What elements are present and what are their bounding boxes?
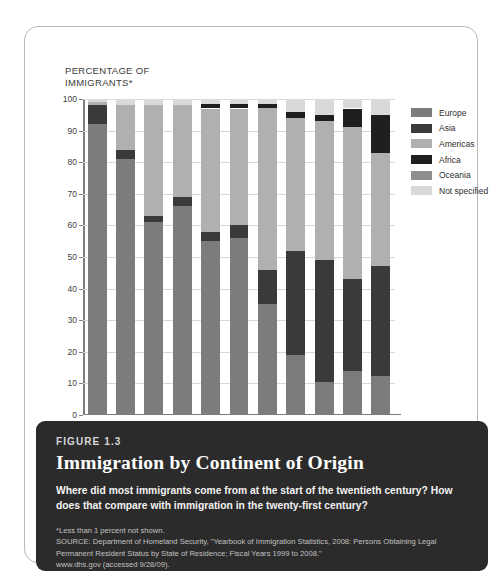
bar-segment-europe[interactable] bbox=[286, 355, 305, 415]
y-axis-title: PERCENTAGE OF IMMIGRANTS* bbox=[65, 65, 215, 89]
y-axis-tick-label: 50 bbox=[68, 252, 77, 262]
figure-page: PERCENTAGE OF IMMIGRANTS* 01020304050607… bbox=[0, 0, 501, 587]
legend-swatch-icon bbox=[411, 171, 432, 180]
bar-segment-europe[interactable] bbox=[371, 376, 390, 416]
bar-segment-asia[interactable] bbox=[173, 197, 192, 206]
bar-segment-europe[interactable] bbox=[144, 222, 163, 415]
bar-segment-not-specified[interactable] bbox=[343, 99, 362, 108]
legend-label: Asia bbox=[439, 123, 456, 133]
bar-segment-americas[interactable] bbox=[116, 105, 135, 149]
bar-1970s[interactable] bbox=[286, 99, 305, 415]
legend-item-not-specified[interactable]: Not specified bbox=[411, 183, 488, 199]
bar-segment-not-specified[interactable] bbox=[88, 99, 107, 102]
y-axis-tick-label: 30 bbox=[68, 315, 77, 325]
legend-item-europe[interactable]: Europe bbox=[411, 105, 488, 121]
bar-segment-not-specified[interactable] bbox=[258, 99, 277, 104]
bar-segment-europe[interactable] bbox=[230, 238, 249, 415]
y-axis-tick-label: 60 bbox=[68, 220, 77, 230]
bar-segment-africa[interactable] bbox=[258, 104, 277, 109]
figure-url: www.dhs.gov (accessed 9/28/09). bbox=[56, 559, 468, 570]
bar-segment-asia[interactable] bbox=[116, 150, 135, 159]
bar-segment-asia[interactable] bbox=[343, 279, 362, 371]
bar-segment-asia[interactable] bbox=[286, 251, 305, 355]
y-axis-tick-label: 20 bbox=[68, 347, 77, 357]
bar-segment-not-specified[interactable] bbox=[286, 99, 305, 112]
y-axis-tick-label: 90 bbox=[68, 126, 77, 136]
legend-item-africa[interactable]: Africa bbox=[411, 152, 488, 168]
figure-number: FIGURE 1.3 bbox=[56, 436, 468, 447]
legend-item-oceania[interactable]: Oceania bbox=[411, 167, 488, 183]
bar-segment-africa[interactable] bbox=[201, 104, 220, 109]
figure-subtitle: Where did most immigrants come from at t… bbox=[56, 483, 468, 513]
bar-1980s[interactable] bbox=[315, 99, 334, 415]
bar-segment-americas[interactable] bbox=[230, 109, 249, 226]
bar-segment-asia[interactable] bbox=[144, 216, 163, 222]
bar-segment-americas[interactable] bbox=[173, 105, 192, 197]
bar-1930s[interactable] bbox=[173, 99, 192, 415]
y-axis-tick-label: 40 bbox=[68, 284, 77, 294]
y-axis-tick-label: 0 bbox=[72, 410, 77, 420]
bar-segment-americas[interactable] bbox=[286, 118, 305, 251]
bar-segment-asia[interactable] bbox=[230, 225, 249, 238]
bar-1950s[interactable] bbox=[230, 99, 249, 415]
legend-item-americas[interactable]: Americas bbox=[411, 136, 488, 152]
bar-segment-asia[interactable] bbox=[315, 260, 334, 382]
y-axis-tick-label: 10 bbox=[68, 378, 77, 388]
plot-area: 0102030405060708090100 bbox=[83, 99, 395, 415]
bar-segment-africa[interactable] bbox=[343, 109, 362, 128]
legend-label: Not specified bbox=[439, 186, 488, 196]
legend-label: Oceania bbox=[439, 170, 471, 180]
bar-segment-asia[interactable] bbox=[371, 266, 390, 375]
bar-segment-africa[interactable] bbox=[230, 104, 249, 109]
bar-segment-not-specified[interactable] bbox=[315, 99, 334, 115]
y-axis-tick-label: 100 bbox=[63, 94, 77, 104]
bar-series-layer bbox=[83, 99, 395, 415]
bar-segment-not-specified[interactable] bbox=[201, 99, 220, 104]
figure-footnote: *Less than 1 percent not shown. bbox=[56, 525, 468, 536]
y-axis-tick-label: 70 bbox=[68, 189, 77, 199]
bar-segment-asia[interactable] bbox=[88, 105, 107, 124]
bar-segment-not-specified[interactable] bbox=[230, 99, 249, 104]
bar-segment-americas[interactable] bbox=[371, 153, 390, 267]
bar-segment-americas[interactable] bbox=[315, 121, 334, 260]
bar-segment-not-specified[interactable] bbox=[371, 99, 390, 115]
caption-panel: FIGURE 1.3 Immigration by Continent of O… bbox=[36, 421, 488, 571]
bar-1990s[interactable] bbox=[343, 99, 362, 415]
bar-segment-americas[interactable] bbox=[343, 127, 362, 279]
bar-segment-asia[interactable] bbox=[258, 270, 277, 305]
y-axis-tick bbox=[79, 415, 83, 416]
bar-segment-asia[interactable] bbox=[201, 232, 220, 241]
bar-segment-not-specified[interactable] bbox=[116, 99, 135, 105]
bar-segment-africa[interactable] bbox=[286, 112, 305, 118]
bar-1960s[interactable] bbox=[258, 99, 277, 415]
bar-1910s[interactable] bbox=[116, 99, 135, 415]
bar-1900s[interactable] bbox=[88, 99, 107, 415]
bar-1940s[interactable] bbox=[201, 99, 220, 415]
bar-segment-not-specified[interactable] bbox=[173, 99, 192, 105]
legend-item-asia[interactable]: Asia bbox=[411, 121, 488, 137]
bar-segment-americas[interactable] bbox=[201, 109, 220, 232]
bar-segment-africa[interactable] bbox=[315, 115, 334, 121]
bar-segment-europe[interactable] bbox=[315, 382, 334, 415]
bar-segment-americas[interactable] bbox=[88, 102, 107, 105]
bar-segment-europe[interactable] bbox=[343, 371, 362, 415]
figure-title: Immigration by Continent of Origin bbox=[56, 452, 468, 474]
chart-legend: EuropeAsiaAmericasAfricaOceaniaNot speci… bbox=[411, 105, 488, 199]
bar-segment-europe[interactable] bbox=[88, 124, 107, 415]
bar-2000s[interactable] bbox=[371, 99, 390, 415]
legend-swatch-icon bbox=[411, 139, 432, 148]
legend-label: Europe bbox=[439, 108, 466, 118]
legend-swatch-icon bbox=[411, 108, 432, 117]
y-axis-tick-label: 80 bbox=[68, 157, 77, 167]
legend-label: Africa bbox=[439, 155, 461, 165]
bar-segment-europe[interactable] bbox=[173, 206, 192, 415]
bar-segment-europe[interactable] bbox=[201, 241, 220, 415]
bar-1920s[interactable] bbox=[144, 99, 163, 415]
bar-segment-not-specified[interactable] bbox=[144, 99, 163, 105]
bar-segment-americas[interactable] bbox=[144, 105, 163, 216]
legend-swatch-icon bbox=[411, 155, 432, 164]
bar-segment-americas[interactable] bbox=[258, 108, 277, 269]
bar-segment-europe[interactable] bbox=[258, 304, 277, 415]
bar-segment-africa[interactable] bbox=[371, 115, 390, 153]
bar-segment-europe[interactable] bbox=[116, 159, 135, 415]
